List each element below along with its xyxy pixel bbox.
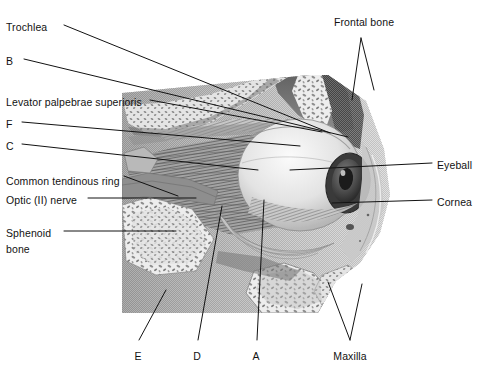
label-levator-palpebrae-superioris: Levator palpebrae superioris	[6, 96, 142, 108]
label-optic-nerve: Optic (II) nerve	[6, 194, 77, 206]
leader-maxilla-a	[328, 282, 350, 340]
leader-maxilla-b	[350, 284, 362, 340]
label-b: B	[6, 55, 13, 67]
leader-cornea	[332, 200, 432, 203]
label-c: C	[6, 140, 14, 152]
label-e: E	[134, 350, 141, 362]
leader-a	[257, 200, 264, 340]
label-sphenoid-bone-line2: bone	[6, 243, 30, 255]
label-eyeball: Eyeball	[437, 159, 472, 171]
label-d: D	[193, 350, 201, 362]
leader-f	[22, 122, 300, 146]
leader-frontal-b	[361, 38, 374, 90]
leader-eyeball	[290, 163, 432, 170]
leader-trochlea	[64, 25, 330, 133]
leader-levator	[150, 100, 322, 132]
label-frontal-bone: Frontal bone	[334, 16, 394, 28]
label-sphenoid-bone-line1: Sphenoid	[6, 227, 51, 239]
label-common-tendinous-ring: Common tendinous ring	[6, 175, 120, 187]
label-trochlea: Trochlea	[6, 21, 47, 33]
leader-ctr	[124, 176, 178, 196]
leader-c	[22, 144, 258, 170]
label-cornea: Cornea	[437, 196, 472, 208]
leader-e	[139, 290, 166, 340]
label-maxilla: Maxilla	[333, 350, 366, 362]
label-a: A	[252, 350, 259, 362]
leader-d	[198, 206, 222, 340]
orbit-anatomy-figure: Trochlea B Levator palpebrae superioris …	[0, 0, 478, 366]
leader-frontal-a	[352, 38, 361, 100]
label-f: F	[6, 118, 13, 130]
